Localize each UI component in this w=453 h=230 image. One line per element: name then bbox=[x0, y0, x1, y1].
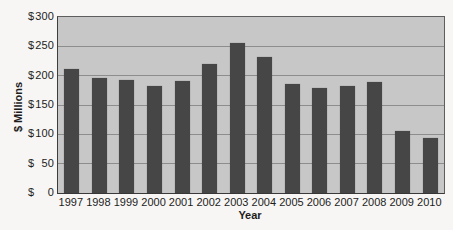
tick-value: 250 bbox=[35, 39, 54, 51]
bar-chart-figure: $ Millions $300$250$200$150$100$50$0 199… bbox=[0, 0, 453, 230]
x-tick-label-2006: 2006 bbox=[305, 196, 333, 208]
x-tick-label-2008: 2008 bbox=[360, 196, 388, 208]
bar-1999 bbox=[119, 80, 134, 193]
x-tick-label-2003: 2003 bbox=[222, 196, 250, 208]
bar-2006 bbox=[312, 88, 327, 193]
currency-symbol: $ bbox=[28, 39, 34, 51]
tick-value: 150 bbox=[35, 98, 54, 110]
bar-2007 bbox=[340, 86, 355, 193]
bar-2001 bbox=[175, 81, 190, 193]
currency-symbol: $ bbox=[28, 98, 34, 110]
x-axis-title: Year bbox=[57, 209, 443, 221]
y-tick-label-100: $100 bbox=[28, 127, 54, 139]
currency-symbol: $ bbox=[28, 157, 34, 169]
currency-symbol: $ bbox=[28, 186, 34, 198]
tick-value: 0 bbox=[48, 186, 54, 198]
bar-2003 bbox=[230, 43, 245, 193]
x-tick-label-2004: 2004 bbox=[250, 196, 278, 208]
y-tick-label-200: $200 bbox=[28, 69, 54, 81]
currency-symbol: $ bbox=[28, 127, 34, 139]
bar-2008 bbox=[367, 82, 382, 193]
currency-symbol: $ bbox=[28, 69, 34, 81]
x-tick-label-2000: 2000 bbox=[140, 196, 168, 208]
bar-2000 bbox=[147, 86, 162, 193]
plot-area bbox=[57, 16, 445, 194]
tick-value: 50 bbox=[42, 157, 54, 169]
x-axis-tick-labels: 1997199819992000200120022003200420052006… bbox=[57, 196, 443, 208]
bar-2010 bbox=[423, 138, 438, 193]
y-axis-title: $ Millions bbox=[12, 82, 24, 132]
y-tick-label-50: $50 bbox=[28, 157, 54, 169]
currency-symbol: $ bbox=[28, 10, 34, 22]
bar-1997 bbox=[64, 69, 79, 193]
bar-series bbox=[58, 17, 444, 193]
y-tick-label-150: $150 bbox=[28, 98, 54, 110]
x-tick-label-2009: 2009 bbox=[388, 196, 416, 208]
x-tick-label-1999: 1999 bbox=[112, 196, 140, 208]
x-tick-label-2005: 2005 bbox=[278, 196, 306, 208]
tick-value: 100 bbox=[35, 127, 54, 139]
y-axis-tick-labels: $300$250$200$150$100$50$0 bbox=[28, 16, 54, 192]
y-tick-label-250: $250 bbox=[28, 39, 54, 51]
bar-2002 bbox=[202, 64, 217, 193]
tick-value: 200 bbox=[35, 69, 54, 81]
y-tick-label-300: $300 bbox=[28, 10, 54, 22]
bar-2004 bbox=[257, 57, 272, 193]
x-tick-label-2007: 2007 bbox=[333, 196, 361, 208]
x-tick-label-2002: 2002 bbox=[195, 196, 223, 208]
x-tick-label-1998: 1998 bbox=[85, 196, 113, 208]
tick-value: 300 bbox=[35, 10, 54, 22]
bar-1998 bbox=[92, 78, 107, 193]
x-tick-label-2010: 2010 bbox=[416, 196, 444, 208]
bar-2005 bbox=[285, 84, 300, 193]
y-tick-label-0: $0 bbox=[28, 186, 54, 198]
x-tick-label-2001: 2001 bbox=[167, 196, 195, 208]
bar-2009 bbox=[395, 131, 410, 193]
x-tick-label-1997: 1997 bbox=[57, 196, 85, 208]
